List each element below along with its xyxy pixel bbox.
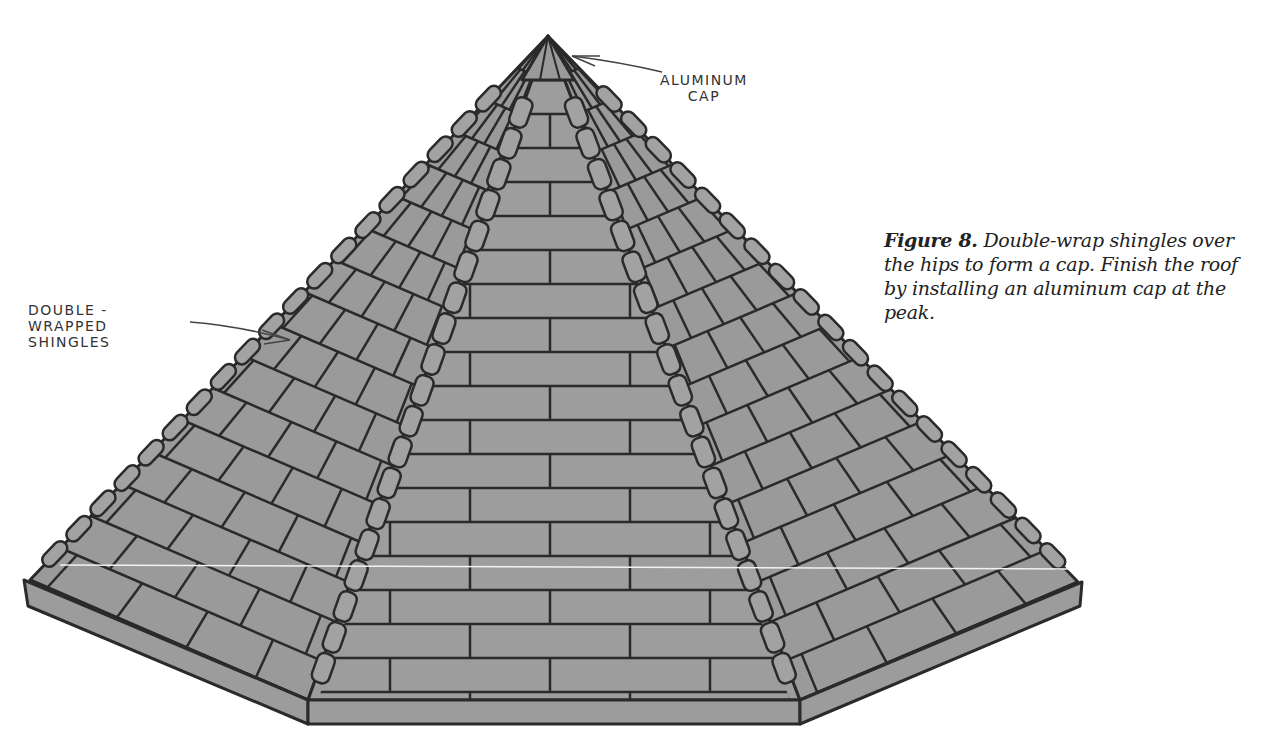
callout-line: ALUMINUM [660, 72, 748, 88]
callout-line: DOUBLE - [28, 302, 110, 318]
callout-line: SHINGLES [28, 334, 110, 350]
arrow-aluminum-cap [572, 56, 662, 72]
roof-illustration [0, 0, 1264, 754]
callout-double-wrapped-shingles: DOUBLE - WRAPPED SHINGLES [28, 302, 110, 350]
callout-line: WRAPPED [28, 318, 110, 334]
callout-line: CAP [660, 88, 748, 104]
roof-faces [30, 36, 1078, 700]
caption-lead: Figure 8. [884, 229, 978, 251]
figure-caption: Figure 8. Double-wrap shingles over the … [884, 228, 1264, 324]
callout-aluminum-cap: ALUMINUM CAP [660, 72, 748, 104]
fascia-front [308, 700, 800, 724]
